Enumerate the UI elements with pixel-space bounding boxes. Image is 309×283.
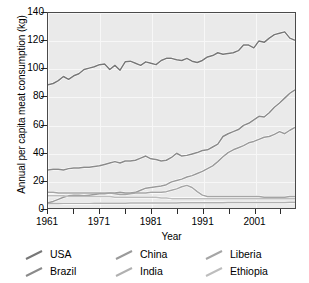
legend-line-icon bbox=[114, 266, 134, 278]
x-axis-tick bbox=[255, 209, 256, 214]
legend-item-liberia[interactable]: Liberia bbox=[204, 249, 294, 261]
y-axis-tick-label: 100 bbox=[4, 63, 44, 73]
x-axis-tick-label: 1991 bbox=[181, 216, 225, 227]
legend-line-icon bbox=[204, 249, 224, 261]
legend-item-usa[interactable]: USA bbox=[24, 249, 114, 261]
series-lines bbox=[48, 13, 295, 208]
x-axis-tick-label: 1971 bbox=[77, 216, 121, 227]
x-axis-tick-minor bbox=[73, 209, 74, 214]
x-axis-tick bbox=[151, 209, 152, 214]
legend-item-india[interactable]: India bbox=[114, 266, 204, 278]
x-axis-tick-label: 1981 bbox=[129, 216, 173, 227]
legend-row: USAChinaLiberia bbox=[24, 246, 294, 263]
legend-line-icon bbox=[204, 266, 224, 278]
legend-label: Ethiopia bbox=[230, 266, 268, 277]
legend-item-china[interactable]: China bbox=[114, 249, 204, 261]
legend-item-ethiopia[interactable]: Ethiopia bbox=[204, 266, 294, 278]
x-axis-tick-minor bbox=[125, 209, 126, 214]
series-line-brazil bbox=[48, 90, 295, 170]
legend-label: China bbox=[140, 249, 167, 260]
y-axis-tick-label: 80 bbox=[4, 91, 44, 101]
y-axis-tick-label: 40 bbox=[4, 148, 44, 158]
legend-row: BrazilIndiaEthiopia bbox=[24, 263, 294, 280]
series-line-usa bbox=[48, 32, 295, 85]
x-axis-tick-minor bbox=[229, 209, 230, 214]
y-axis-tick-label: 0 bbox=[4, 204, 44, 214]
chart-legend: USAChinaLiberiaBrazilIndiaEthiopia bbox=[24, 246, 294, 280]
x-axis-tick-minor bbox=[177, 209, 178, 214]
legend-label: USA bbox=[50, 249, 72, 260]
x-axis-tick-label: 2001 bbox=[233, 216, 277, 227]
x-axis-tick-minor bbox=[280, 209, 281, 214]
x-axis-label: Year bbox=[47, 231, 296, 242]
y-axis-tick-label: 140 bbox=[4, 7, 44, 17]
legend-label: India bbox=[140, 266, 163, 277]
x-axis-tick bbox=[203, 209, 204, 214]
x-axis-tick bbox=[47, 209, 48, 214]
legend-item-brazil[interactable]: Brazil bbox=[24, 266, 114, 278]
y-axis-tick-label: 120 bbox=[4, 35, 44, 45]
legend-line-icon bbox=[114, 249, 134, 261]
legend-line-icon bbox=[24, 266, 44, 278]
x-axis-tick-label: 1961 bbox=[25, 216, 69, 227]
y-axis-tick-label: 20 bbox=[4, 176, 44, 186]
legend-label: Brazil bbox=[50, 266, 76, 277]
legend-label: Liberia bbox=[230, 249, 262, 260]
y-axis-tick-label: 60 bbox=[4, 120, 44, 130]
x-axis-tick bbox=[99, 209, 100, 214]
chart-figure: Annual per capita meat consumption (kg) … bbox=[0, 0, 309, 283]
legend-line-icon bbox=[24, 249, 44, 261]
plot-area bbox=[47, 12, 296, 209]
